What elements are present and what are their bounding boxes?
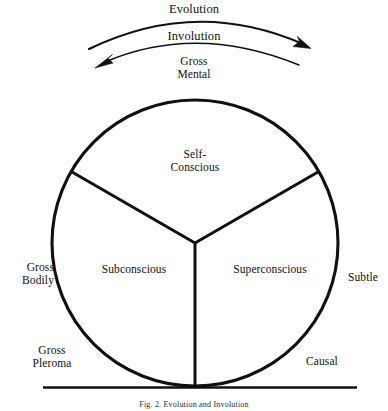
evolution-label: Evolution [0,2,388,17]
outer-label-gross-pleroma: Gross Pleroma [14,344,90,371]
involution-label: Involution [0,29,388,44]
gross-mental-label: Gross Mental [0,55,388,82]
figure-evolution-involution: Evolution Involution Gross Mental Self- … [0,0,388,411]
sector-label-self-conscious: Self- Conscious [146,148,244,175]
sector-label-superconscious: Superconscious [218,263,322,276]
outer-label-gross-bodily: Gross Bodily [2,261,54,288]
outer-label-causal: Causal [306,355,354,368]
outer-label-subtle: Subtle [348,271,388,284]
sector-label-subconscious: Subconscious [88,263,180,276]
figure-caption: Fig. 2. Evolution and Involution [0,400,388,409]
